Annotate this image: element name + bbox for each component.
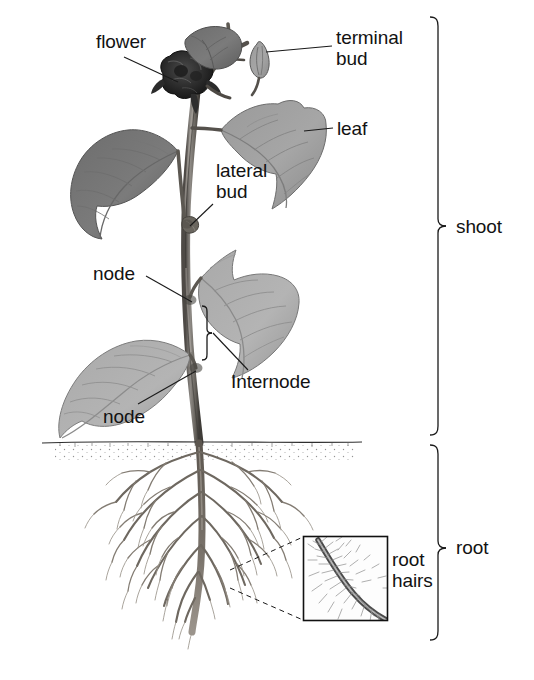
label-terminal-bud: terminalbud xyxy=(336,27,403,69)
node-swelling-middle xyxy=(184,295,197,305)
label-flower: flower xyxy=(96,31,146,52)
label-terminal-bud-line1: terminal xyxy=(336,27,403,48)
leader-lateral-bud xyxy=(190,204,213,226)
bracket-root xyxy=(430,445,446,640)
inset-connector-lines xyxy=(230,537,303,620)
plant-anatomy-diagram: flower terminalbud leaf lateralbud node … xyxy=(0,0,534,680)
label-internode: Internode xyxy=(231,371,310,392)
leaf-upper-left xyxy=(71,130,185,239)
label-root-hairs: roothairs xyxy=(392,549,433,591)
label-node-lower: node xyxy=(103,406,145,427)
label-lateral-bud: lateralbud xyxy=(216,160,267,202)
label-root-hairs-line1: root xyxy=(392,549,424,570)
label-shoot: shoot xyxy=(456,216,502,237)
label-root-hairs-line2: hairs xyxy=(392,570,433,591)
bracket-shoot xyxy=(430,17,446,435)
label-terminal-bud-line2: bud xyxy=(336,48,367,69)
node-swelling-upper xyxy=(181,220,193,229)
label-node-upper: node xyxy=(93,263,135,284)
root-system xyxy=(85,443,313,649)
leader-terminal-bud xyxy=(266,46,332,52)
plant-illustration xyxy=(0,0,534,680)
main-stem xyxy=(185,92,200,443)
label-leaf: leaf xyxy=(337,118,367,139)
terminal-bud xyxy=(250,42,269,95)
label-lateral-bud-line2: bud xyxy=(216,181,247,202)
label-root: root xyxy=(456,537,488,558)
label-lateral-bud-line1: lateral xyxy=(216,160,267,181)
